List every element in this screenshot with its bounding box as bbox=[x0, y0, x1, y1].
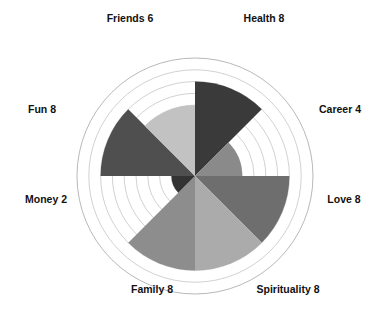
label-money: Money 2 bbox=[25, 193, 67, 205]
label-family: Family 8 bbox=[131, 283, 173, 295]
wedge-family[interactable] bbox=[128, 176, 195, 270]
label-fun: Fun 8 bbox=[28, 103, 56, 115]
label-career: Career 4 bbox=[319, 103, 361, 115]
label-friends: Friends 6 bbox=[107, 12, 154, 24]
label-spirituality: Spirituality 8 bbox=[256, 283, 319, 295]
wedges bbox=[101, 82, 290, 271]
label-love: Love 8 bbox=[327, 193, 360, 205]
chart-canvas: Health 8Career 4Love 8Spirituality 8Fami… bbox=[0, 0, 385, 316]
wheel-of-life-chart: Health 8Career 4Love 8Spirituality 8Fami… bbox=[0, 0, 385, 316]
label-health: Health 8 bbox=[244, 12, 285, 24]
